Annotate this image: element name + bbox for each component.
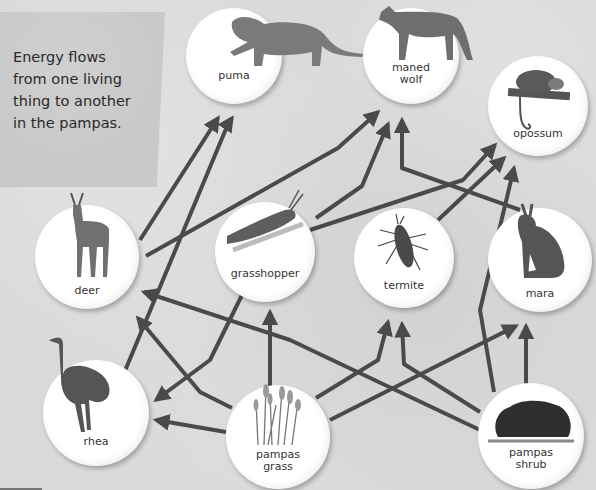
maned-wolf-icon — [373, 4, 473, 64]
pampas-shrub-icon — [486, 397, 576, 443]
node-label-puma: puma — [186, 70, 282, 82]
puma-icon — [224, 12, 364, 72]
arrow-grasshopper-to-maned-wolf — [316, 124, 388, 218]
grasshopper-icon — [223, 188, 313, 254]
rhea-icon — [45, 334, 125, 434]
arrow-pampas-grass-to-deer — [138, 318, 232, 408]
pampas-grass-icon — [248, 381, 308, 447]
node-opossum[interactable]: opossum — [488, 56, 588, 156]
node-label-termite: termite — [354, 280, 454, 292]
node-grasshopper[interactable]: grasshopper — [215, 202, 315, 302]
node-label-opossum: opossum — [488, 128, 588, 140]
node-label-rhea: rhea — [43, 436, 149, 448]
node-pampas-shrub[interactable]: pampas shrub — [478, 383, 584, 489]
node-label-mara: mara — [488, 288, 592, 300]
mara-icon — [512, 202, 568, 282]
arrow-termite-to-opossum — [438, 158, 504, 220]
node-termite[interactable]: termite — [354, 208, 454, 308]
node-mara[interactable]: mara — [488, 208, 592, 312]
node-label-maned-wolf-2: wolf — [363, 74, 459, 86]
arrow-pampas-grass-to-rhea — [156, 420, 226, 432]
termite-icon — [376, 214, 432, 278]
node-label-pampas-shrub-2: shrub — [478, 459, 584, 471]
deer-icon — [57, 191, 117, 281]
node-label-pampas-grass-2: grass — [226, 461, 330, 473]
node-label-deer: deer — [35, 285, 139, 297]
node-label-grasshopper: grasshopper — [215, 268, 315, 280]
node-puma[interactable]: puma — [186, 8, 282, 104]
node-maned-wolf[interactable]: maned wolf — [363, 8, 459, 104]
node-deer[interactable]: deer — [35, 205, 139, 309]
node-rhea[interactable]: rhea — [43, 360, 149, 466]
opossum-icon — [506, 64, 570, 134]
node-pampas-grass[interactable]: pampas grass — [226, 385, 330, 489]
arrow-pampas-grass-to-termite — [316, 322, 388, 398]
